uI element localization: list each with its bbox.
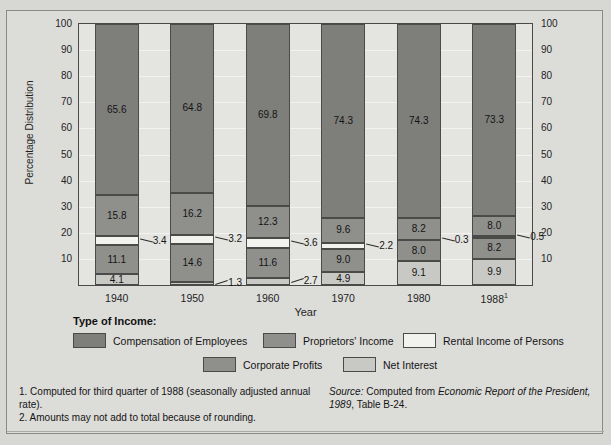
footnote-2: 2. Amounts may not add to total because … [19,411,311,424]
y-tick-right-20: 20 [541,228,571,238]
source-text-2: , Table B-24. [351,399,407,410]
bar-segment-1960-compensation-of-employees: 69.8 [246,24,290,206]
legend-title: Type of Income: [73,315,157,327]
bar-segment-1988-proprietors-income: 8.0 [472,216,516,237]
x-tick-1988: 19881 [452,292,536,305]
y-tick-right-60: 60 [541,123,571,133]
y-tick-left-40: 40 [46,176,72,186]
divider [7,431,604,432]
segment-value: 9.0 [322,255,364,265]
legend-swatch [263,333,296,348]
bar-1940: 4.111.115.865.6 [95,24,139,285]
y-tick-left-50: 50 [46,150,72,160]
bar-1980: 9.18.08.274.3 [397,24,441,285]
gridline [79,76,532,77]
legend-item-compensation-of-employees: Compensation of Employees [73,333,247,348]
footnotes: 1. Computed for third quarter of 1988 (s… [19,385,311,424]
segment-value-callout: 3.4 [153,236,167,246]
source-note: Source: Computed from Economic Report of… [329,385,594,411]
legend-item-corporate-profits: Corporate Profits [203,357,322,372]
segment-value: 73.3 [473,115,515,125]
segment-value: 8.2 [398,224,440,234]
bar-segment-1970-proprietors-income: 9.6 [321,218,365,243]
segment-value: 4.9 [322,274,364,284]
y-axis-label: Percentage Distribution [24,53,35,213]
gridline [79,128,532,129]
legend-label: Proprietors' Income [303,335,394,347]
figure-panel: Percentage Distribution 1010202030304040… [6,10,603,434]
notes-block: 1. Computed for third quarter of 1988 (s… [7,383,604,435]
bar-1988: 9.98.28.073.3 [472,24,516,285]
footnote-1: 1. Computed for third quarter of 1988 (s… [19,385,311,411]
segment-value: 11.6 [247,258,289,268]
bar-segment-1960-net-interest [246,278,290,285]
bar-segment-1940-proprietors-income: 15.8 [95,195,139,236]
segment-value-callout: 3.2 [228,234,242,244]
bar-segment-1950-corporate-profits: 14.6 [170,244,214,282]
y-tick-right-40: 40 [541,176,571,186]
bar-1970: 4.99.09.674.3 [321,24,365,285]
gridline [79,102,532,103]
bar-segment-1980-net-interest: 9.1 [397,261,441,285]
source-text-1: Computed from [363,386,437,397]
segment-value-callout: 2.7 [304,276,318,286]
segment-value: 74.3 [398,116,440,126]
segment-value-callout: 1.3 [228,278,242,288]
legend-swatch [203,357,236,372]
segment-value: 15.8 [96,211,138,221]
segment-value: 65.6 [96,105,138,115]
bar-segment-1970-corporate-profits: 9.0 [321,249,365,272]
bar-segment-1970-rental-income-of-persons [321,243,365,249]
gridline [79,181,532,182]
y-tick-right-90: 90 [541,45,571,55]
y-tick-left-80: 80 [46,71,72,81]
bar-segment-1988-compensation-of-employees: 73.3 [472,24,516,215]
bar-segment-1960-proprietors-income: 12.3 [246,206,290,238]
y-tick-left-70: 70 [46,97,72,107]
y-tick-left-20: 20 [46,228,72,238]
bar-segment-1950-net-interest [170,282,214,285]
segment-value: 64.8 [171,103,213,113]
segment-value-callout: 3.6 [304,238,318,248]
y-tick-right-10: 10 [541,254,571,264]
legend-swatch [403,333,436,348]
bar-segment-1950-compensation-of-employees: 64.8 [170,24,214,193]
gridline [79,207,532,208]
bar-segment-1940-rental-income-of-persons [95,236,139,245]
bar-segment-1960-rental-income-of-persons [246,238,290,247]
segment-value: 9.9 [473,267,515,277]
bar-1950: 14.616.264.8 [170,24,214,285]
legend-item-net-interest: Net Interest [343,357,437,372]
segment-value: 14.6 [171,258,213,268]
y-tick-left-60: 60 [46,123,72,133]
segment-value: 74.3 [322,116,364,126]
legend-label: Compensation of Employees [113,335,247,347]
segment-value: 11.1 [96,255,138,265]
bar-segment-1950-rental-income-of-persons [170,235,214,243]
segment-value: 9.1 [398,268,440,278]
segment-value: 69.8 [247,110,289,120]
legend-swatch [73,333,106,348]
bar-segment-1970-compensation-of-employees: 74.3 [321,24,365,218]
y-tick-left-90: 90 [46,45,72,55]
segment-value: 8.0 [398,246,440,256]
x-tick-1970: 1970 [301,292,385,304]
x-tick-1980: 1980 [377,292,461,304]
bar-segment-1980-proprietors-income: 8.2 [397,218,441,239]
gridline [79,259,532,260]
bar-segment-1988-corporate-profits: 8.2 [472,238,516,259]
legend-label: Net Interest [383,359,437,371]
segment-value: 12.3 [247,217,289,227]
bar-segment-1960-corporate-profits: 11.6 [246,248,290,278]
legend-swatch [343,357,376,372]
segment-value: 16.2 [171,209,213,219]
bar-segment-1950-proprietors-income: 16.2 [170,193,214,235]
gridline [79,50,532,51]
chart-area: Percentage Distribution 1010202030304040… [7,11,604,311]
bar-segment-1980-compensation-of-employees: 74.3 [397,24,441,218]
y-tick-left-100: 100 [46,19,72,29]
y-tick-right-80: 80 [541,71,571,81]
segment-value: 8.0 [473,221,515,231]
y-tick-right-100: 100 [541,19,571,29]
segment-value-callout: 0.3 [455,235,469,245]
